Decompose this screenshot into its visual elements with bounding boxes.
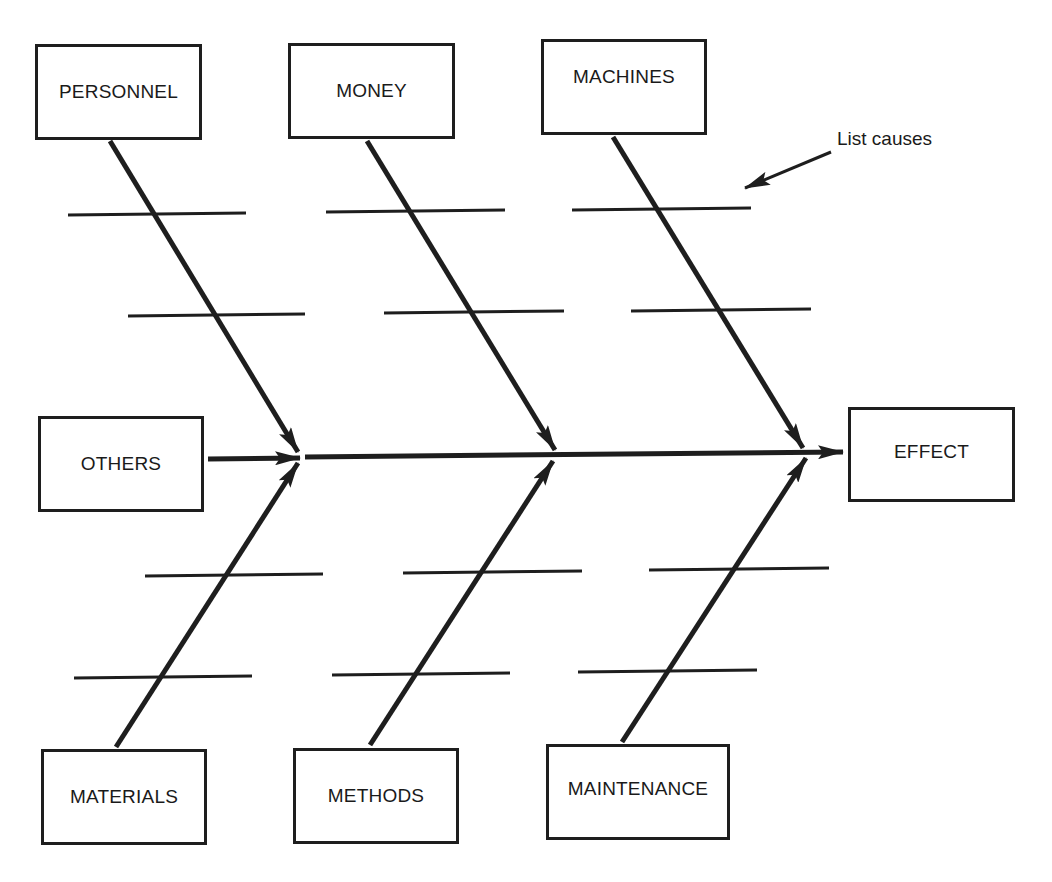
category-box-personnel: PERSONNEL xyxy=(35,44,202,140)
money-bone xyxy=(367,141,555,450)
category-box-materials: MATERIALS xyxy=(41,749,207,845)
category-box-maintenance: MAINTENANCE xyxy=(546,744,730,840)
effect-label: EFFECT xyxy=(894,441,969,463)
list-causes-arrow xyxy=(745,152,831,188)
category-label: PERSONNEL xyxy=(59,81,178,103)
personnel-bone xyxy=(110,141,298,452)
effect-box: EFFECT xyxy=(848,407,1015,502)
spine-arrow xyxy=(305,452,843,457)
category-box-methods: METHODS xyxy=(293,748,459,844)
category-box-others: OTHERS xyxy=(38,416,204,512)
fishbone-diagram: PERSONNEL MONEY MACHINES List causes OTH… xyxy=(0,0,1052,882)
maintenance-bone xyxy=(622,458,806,742)
category-box-money: MONEY xyxy=(288,43,455,139)
category-box-machines: MACHINES xyxy=(541,39,707,135)
list-causes-annotation: List causes xyxy=(837,128,932,150)
category-label: MATERIALS xyxy=(70,786,178,808)
machines-bone xyxy=(613,137,803,448)
category-label: OTHERS xyxy=(81,453,161,475)
others-arrow xyxy=(208,458,300,459)
category-label: MAINTENANCE xyxy=(568,778,709,800)
category-label: MACHINES xyxy=(573,66,675,88)
category-label: METHODS xyxy=(328,785,424,807)
methods-bone xyxy=(370,461,553,745)
category-label: MONEY xyxy=(336,80,407,102)
